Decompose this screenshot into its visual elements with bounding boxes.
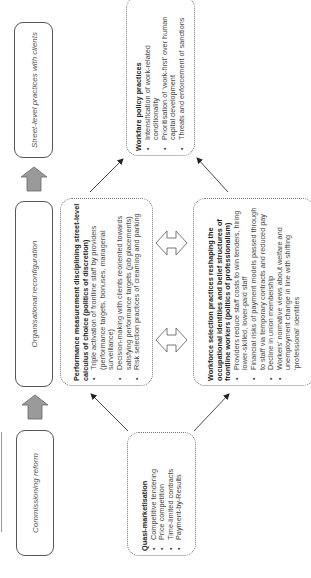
arrow-performance-to-workfare xyxy=(90,159,123,192)
double-arrow-icon-upper xyxy=(156,231,187,255)
double-arrow-icon-lower xyxy=(156,328,187,352)
arrow-quasi-to-performance xyxy=(91,394,128,431)
arrow-workforce-to-workfare xyxy=(197,158,228,192)
connector-layer xyxy=(0,0,311,578)
arrow-quasi-to-workforce xyxy=(194,394,229,431)
